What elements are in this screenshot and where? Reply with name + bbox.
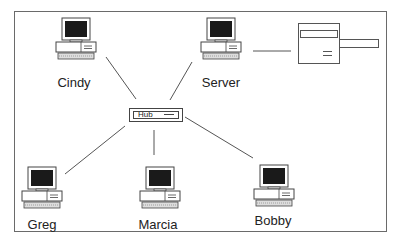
node-label: Marcia xyxy=(123,217,193,232)
computer-icon xyxy=(139,166,181,210)
node-label: Bobby xyxy=(238,213,308,228)
hub-device: Hub xyxy=(129,108,183,122)
printer-tray xyxy=(339,39,379,48)
link-greg-hub xyxy=(65,126,125,174)
link-bobby-hub xyxy=(185,117,253,158)
hub-vent-icon xyxy=(164,114,174,119)
computer-icon xyxy=(55,17,97,61)
hub-panel: Hub xyxy=(133,111,179,119)
computer-icon xyxy=(21,166,63,210)
printer-vent-icon xyxy=(323,51,332,56)
printer-device xyxy=(298,23,340,64)
node-label: Server xyxy=(186,75,256,90)
link-cindy-hub xyxy=(106,57,136,99)
hub-label: Hub xyxy=(138,110,153,119)
node-label: Greg xyxy=(7,217,77,232)
printer-paper-slot xyxy=(300,30,338,38)
computer-icon xyxy=(253,164,295,208)
node-label: Cindy xyxy=(39,75,109,90)
computer-icon xyxy=(200,17,242,61)
